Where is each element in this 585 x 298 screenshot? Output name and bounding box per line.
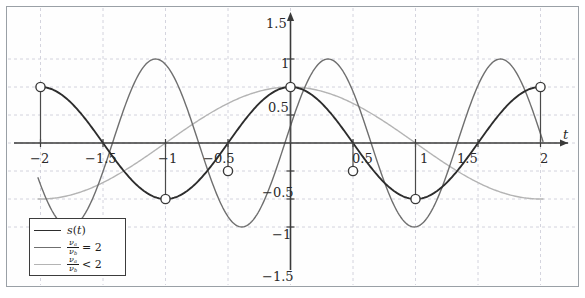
- fraction-nu-a-nu-b-2: νa νb: [67, 256, 79, 273]
- legend-entry-ratio-less-2[interactable]: νa νb < 2: [34, 256, 121, 273]
- legend-label-ratio-equals-2: νa νb = 2: [67, 239, 102, 256]
- legend-entry-s-t[interactable]: s(t): [34, 222, 121, 239]
- y-tick-label-0-5: 0.5: [268, 101, 289, 114]
- x-tick-label--1-5: −1.5: [85, 152, 117, 165]
- sample-point-marker[interactable]: [286, 82, 295, 91]
- x-axis-label: t: [563, 128, 568, 141]
- sample-point-marker[interactable]: [223, 166, 232, 175]
- legend-relation-equals-2: = 2: [82, 241, 102, 254]
- y-tick-label-1-5: 1.5: [266, 17, 287, 30]
- y-tick-label--1: −1: [272, 228, 291, 241]
- legend[interactable]: s(t) νa νb = 2 νa νb < 2: [29, 218, 126, 276]
- x-tick-label-0-5: 0.5: [352, 152, 373, 165]
- figure-root: −2 −1.5 −1 −0.5 0.5 1 1.5 2 1.5 1 0.5 −0…: [0, 0, 585, 298]
- y-tick-label-1: 1: [281, 57, 289, 70]
- x-tick-label--1: −1: [158, 152, 177, 165]
- x-tick-label-1: 1: [420, 152, 428, 165]
- fraction-nu-a-nu-b: νa νb: [67, 239, 79, 256]
- x-tick-label-2: 2: [540, 152, 548, 165]
- legend-swatch-s-t: [34, 230, 61, 231]
- sample-point-marker[interactable]: [411, 194, 420, 203]
- legend-label-ratio-less-2: νa νb < 2: [67, 256, 102, 273]
- x-tick-label-1-5: 1.5: [457, 152, 478, 165]
- sample-point-marker[interactable]: [348, 166, 357, 175]
- y-axis-arrow: [287, 12, 294, 21]
- y-tick-label--1-5: −1.5: [262, 270, 294, 283]
- sample-point-marker[interactable]: [536, 82, 545, 91]
- y-tick-label--0-5: −0.5: [262, 186, 294, 199]
- sample-point-marker[interactable]: [36, 82, 45, 91]
- legend-swatch-ratio-equals-2: [34, 247, 61, 248]
- legend-entry-ratio-equals-2[interactable]: νa νb = 2: [34, 239, 121, 256]
- x-tick-label--0-5: −0.5: [203, 152, 235, 165]
- legend-swatch-ratio-less-2: [34, 264, 61, 265]
- x-tick-label--2: −2: [30, 152, 49, 165]
- legend-relation-less-2: < 2: [82, 258, 102, 271]
- legend-label-s-t: s(t): [67, 224, 86, 237]
- sample-point-marker[interactable]: [161, 194, 170, 203]
